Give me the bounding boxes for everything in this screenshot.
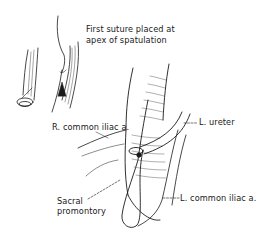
label-sacral-line2: promontory — [57, 206, 106, 216]
leader-lines — [88, 123, 197, 199]
label-r-common-iliac: R. common iliac a. — [52, 122, 129, 132]
label-first-suture-line2: apex of spatulation — [86, 35, 167, 45]
left-ureter — [129, 112, 190, 155]
ureter-inset-left — [17, 48, 38, 107]
label-l-ureter: L. ureter — [199, 117, 235, 127]
right-common-iliac-artery — [78, 130, 126, 176]
r-iliac-leader — [96, 132, 108, 138]
label-first-suture-line1: First suture placed at — [86, 24, 175, 34]
ureter-inset-suture — [52, 16, 79, 112]
label-sacral-line1: Sacral — [57, 196, 83, 206]
label-l-common-iliac: L. common iliac a. — [180, 193, 256, 203]
